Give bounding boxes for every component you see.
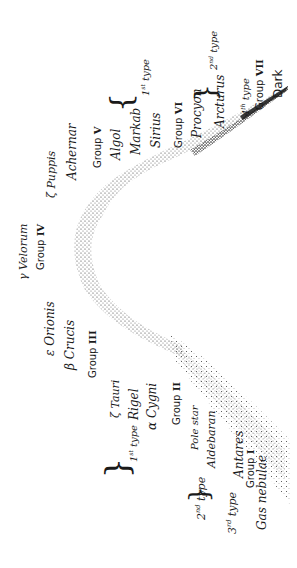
label-sirius: Sirius xyxy=(150,112,162,148)
label-type3: 3rd type xyxy=(226,492,238,534)
brace-type2-upper: { xyxy=(194,84,222,102)
label-epsilon-orionis: ε Orionis xyxy=(44,301,56,356)
label-group-ii: Group II xyxy=(172,382,182,425)
label-dark: Dark xyxy=(272,70,284,98)
label-rigel: Rigel xyxy=(128,389,140,421)
label-group-v: Group V xyxy=(93,127,103,168)
label-group-iv: Group IV xyxy=(36,224,46,270)
label-type1-lower: 1st type xyxy=(128,425,139,462)
label-antares: Antares xyxy=(233,431,245,478)
label-type1-upper: 1st type xyxy=(140,59,151,96)
label-beta-crucis: β Crucis xyxy=(64,320,76,370)
label-gas-nebulae: Gas nebulae xyxy=(256,455,268,530)
label-markab: Markab xyxy=(130,108,142,155)
label-zeta-puppis: ζ Puppis xyxy=(46,151,57,198)
brace-type1-upper: { xyxy=(106,93,136,112)
label-group-vi: Group VI xyxy=(174,102,184,148)
label-alpha-cygni: α Cygni xyxy=(146,383,158,430)
label-group-vii: Group VII xyxy=(255,59,265,110)
label-type4: 4th type xyxy=(240,78,251,116)
stellar-evolution-diagram: ζ Puppis Achernar Group V Algol Markab S… xyxy=(0,0,297,568)
label-aldebaran: Aldebaran xyxy=(206,410,217,468)
label-type2-upper: 2nd type xyxy=(208,31,219,70)
label-algol: Algol xyxy=(110,129,122,160)
label-achernar: Achernar xyxy=(66,123,78,180)
label-type2-lower: 2nd type xyxy=(195,477,207,520)
label-pole-star: Pole star xyxy=(190,405,200,450)
label-zeta-tauri: ζ Tauri xyxy=(110,380,121,418)
label-gamma-velorum: γ Velorum xyxy=(18,224,29,280)
label-group-iii: Group III xyxy=(88,330,98,378)
